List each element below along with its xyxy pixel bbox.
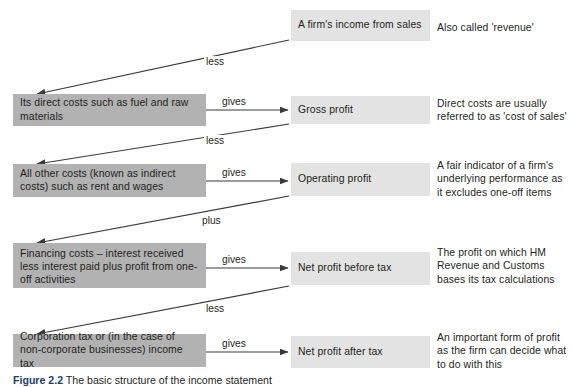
edge-label-plus: plus <box>200 215 223 226</box>
profit-box-revenue: A firm's income from sales <box>291 10 430 41</box>
profit-box-label: Gross profit <box>298 103 353 116</box>
profit-box-net-profit-before-tax: Net profit before tax <box>291 252 430 285</box>
profit-box-label: Operating profit <box>298 172 371 185</box>
edge-label-gives-3: gives <box>220 254 248 265</box>
cost-box-financing-costs: Financing costs – interest received less… <box>13 243 206 288</box>
arrow-diagonal-less-2 <box>37 124 289 164</box>
note-operating-profit: A fair indicator of a firm's underlying … <box>437 159 569 199</box>
edge-label-less-3: less <box>204 303 226 314</box>
note-net-profit-after-tax: An important form of profit as the firm … <box>437 331 570 371</box>
note-revenue: Also called 'revenue' <box>437 21 569 34</box>
cost-box-indirect-costs: All other costs (known as indirect costs… <box>13 164 206 197</box>
cost-box-label: Corporation tax or (in the case of non-c… <box>20 330 199 370</box>
figure-caption-text: The basic structure of the income statem… <box>66 374 272 386</box>
edge-label-less-1: less <box>204 56 226 67</box>
cost-box-corporation-tax: Corporation tax or (in the case of non-c… <box>13 334 206 367</box>
edge-label-less-2: less <box>204 135 226 146</box>
edge-label-gives-1: gives <box>220 96 248 107</box>
profit-box-gross-profit: Gross profit <box>291 96 430 124</box>
cost-box-label: Financing costs – interest received less… <box>20 247 199 287</box>
profit-box-net-profit-after-tax: Net profit after tax <box>291 336 430 368</box>
note-net-profit-before-tax: The profit on which HM Revenue and Custo… <box>437 246 570 286</box>
cost-box-label: Its direct costs such as fuel and raw ma… <box>20 96 199 122</box>
profit-box-label: Net profit after tax <box>298 345 383 358</box>
income-statement-diagram: A firm's income from sales Also called '… <box>0 0 572 387</box>
profit-box-label: A firm's income from sales <box>298 18 422 31</box>
profit-box-operating-profit: Operating profit <box>291 163 430 196</box>
arrow-diagonal-less-1 <box>37 40 289 94</box>
note-gross-profit: Direct costs are usually referred to as … <box>437 97 571 124</box>
cost-box-label: All other costs (known as indirect costs… <box>20 167 199 193</box>
arrow-diagonal-plus <box>37 196 289 243</box>
profit-box-label: Net profit before tax <box>298 261 391 274</box>
edge-label-gives-4: gives <box>220 338 248 349</box>
edge-label-gives-2: gives <box>220 167 248 178</box>
cost-box-direct-costs: Its direct costs such as fuel and raw ma… <box>13 94 206 126</box>
arrow-diagonal-less-3 <box>37 286 289 334</box>
figure-caption: Figure 2.2 The basic structure of the in… <box>13 374 272 387</box>
figure-caption-number: Figure 2.2 <box>13 374 63 386</box>
